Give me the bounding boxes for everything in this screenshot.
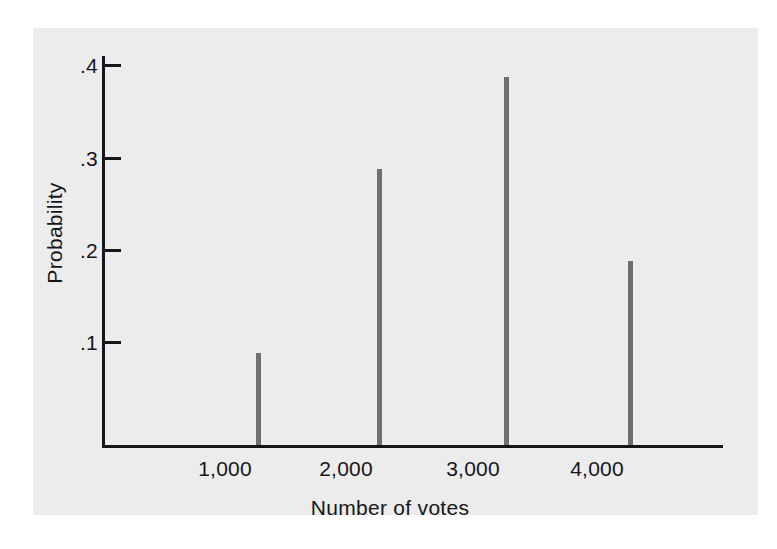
y-tick-1: .3 [105, 157, 121, 160]
x-axis-title: Number of votes [311, 496, 470, 520]
bar-4000[interactable] [628, 261, 633, 445]
plot-area: .4 .3 .2 .1 1,000 2,000 3,000 4,000 Numb… [33, 28, 758, 515]
x-axis-line [102, 445, 723, 448]
y-tick-label-1: .3 [80, 146, 98, 170]
x-tick-label-3: 4,000 [570, 457, 624, 481]
x-tick-label-2: 3,000 [446, 457, 500, 481]
y-tick-label-2: .2 [80, 238, 98, 262]
y-tick-label-0: .4 [80, 53, 98, 77]
y-tick-label-3: .1 [80, 330, 98, 354]
y-axis-title: Probability [43, 182, 67, 283]
x-tick-label-0: 1,000 [198, 457, 252, 481]
chart-figure: .4 .3 .2 .1 1,000 2,000 3,000 4,000 Numb… [0, 0, 777, 549]
bar-1000[interactable] [256, 353, 261, 445]
bar-2000[interactable] [377, 169, 382, 445]
chart-panel: .4 .3 .2 .1 1,000 2,000 3,000 4,000 Numb… [33, 28, 758, 515]
y-axis-line [102, 56, 105, 448]
y-tick-3: .1 [105, 341, 121, 344]
y-tick-2: .2 [105, 249, 121, 252]
y-tick-0: .4 [105, 64, 121, 67]
bar-3000[interactable] [504, 77, 509, 445]
x-tick-label-1: 2,000 [319, 457, 373, 481]
